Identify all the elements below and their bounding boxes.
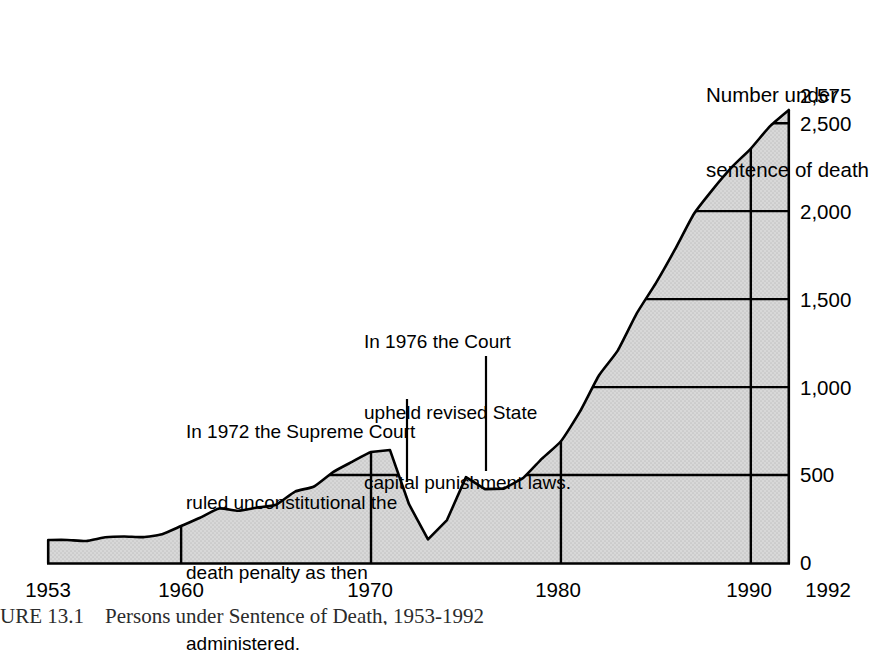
series-title-line2: sentence of death xyxy=(706,157,869,182)
annotation-1976-line1: In 1976 the Court xyxy=(364,330,571,354)
annotation-1972-line3: death penalty as then xyxy=(186,561,415,585)
y-axis-label-2575: 2,575 xyxy=(800,84,851,108)
y-axis-label-0: 0 xyxy=(800,551,811,575)
y-axis-label-1000: 1,000 xyxy=(800,376,851,400)
y-axis-label-500: 500 xyxy=(800,463,834,487)
y-axis-label-2000: 2,000 xyxy=(800,200,851,224)
x-axis-label-1990: 1990 xyxy=(711,578,787,602)
x-axis-label-1953: 1953 xyxy=(10,578,86,602)
y-axis-label-1500: 1,500 xyxy=(800,288,851,312)
x-axis-label-1980: 1980 xyxy=(520,578,596,602)
annotation-1972-line4: administered. xyxy=(186,632,415,654)
annotation-1976: In 1976 the Court upheld revised State c… xyxy=(364,283,571,542)
y-axis-label-2500: 2,500 xyxy=(800,112,851,136)
figure-caption: URE 13.1 Persons under Sentence of Death… xyxy=(0,604,882,625)
x-axis-label-1992: 1992 xyxy=(790,578,866,602)
annotation-1976-line2: upheld revised State xyxy=(364,401,571,425)
annotation-1976-line3: capital punishment laws. xyxy=(364,471,571,495)
